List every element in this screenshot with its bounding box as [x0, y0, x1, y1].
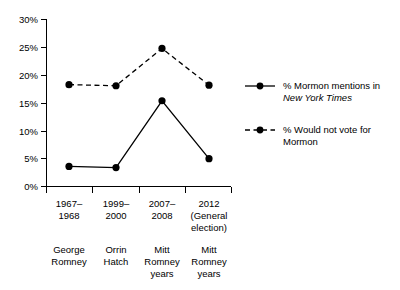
- data-point: [205, 82, 212, 89]
- y-axis-ticks: [41, 20, 47, 187]
- x-person-label-3-line1: Mitt: [201, 244, 217, 255]
- legend-label-1-line2: New York Times: [283, 92, 352, 103]
- x-person-label-2-line3: years: [150, 268, 173, 279]
- data-point: [205, 155, 212, 162]
- line-chart: 30% 25% 20% 15% 10% 5% 0% 1967–: [0, 0, 400, 290]
- series-would-not-vote: [65, 45, 212, 89]
- legend-dashed-marker-icon: [257, 127, 264, 134]
- legend-label-2-line2: Mormon: [283, 136, 318, 147]
- data-point: [112, 164, 119, 171]
- chart-legend: % Mormon mentions in New York Times % Wo…: [245, 80, 380, 147]
- data-point: [65, 81, 72, 88]
- legend-item-would-not-vote[interactable]: % Would not vote for Mormon: [245, 124, 371, 147]
- series-solid-path: [69, 101, 209, 168]
- x-person-label-0-line2: Romney: [51, 256, 87, 267]
- y-axis-tick-labels: 30% 25% 20% 15% 10% 5% 0%: [19, 14, 39, 192]
- y-tick-label-25: 25%: [19, 42, 39, 53]
- x-period-label-2-line1: 2007–: [149, 198, 176, 209]
- series-mormon-mentions: [65, 97, 212, 171]
- data-point: [158, 45, 165, 52]
- x-person-label-3-line3: years: [197, 268, 220, 279]
- series-dashed-path: [69, 48, 209, 85]
- x-period-label-1-line1: 1999–: [103, 198, 130, 209]
- y-tick-label-0: 0%: [24, 181, 38, 192]
- x-person-label-2-line2: Romney: [144, 256, 180, 267]
- data-point: [65, 163, 72, 170]
- legend-label-1-line1: % Mormon mentions in: [283, 80, 380, 91]
- data-point: [158, 97, 165, 104]
- x-period-label-3-line3: election): [191, 222, 227, 233]
- x-period-label-3-line2: (General: [191, 210, 228, 221]
- y-tick-label-20: 20%: [19, 70, 39, 81]
- x-axis-person-labels: George Romney Orrin Hatch Mitt Romney ye…: [51, 244, 227, 279]
- x-person-label-3-line2: Romney: [191, 256, 227, 267]
- y-tick-label-10: 10%: [19, 126, 39, 137]
- legend-item-mormon-mentions[interactable]: % Mormon mentions in New York Times: [245, 80, 380, 103]
- x-person-label-0-line1: George: [53, 244, 85, 255]
- legend-label-2-line1: % Would not vote for: [283, 124, 371, 135]
- chart-canvas: 30% 25% 20% 15% 10% 5% 0% 1967–: [0, 0, 400, 290]
- data-point: [112, 82, 119, 89]
- x-period-label-1-line2: 2000: [105, 210, 126, 221]
- x-person-label-2-line1: Mitt: [154, 244, 170, 255]
- x-period-label-0-line1: 1967–: [56, 198, 83, 209]
- legend-solid-marker-icon: [257, 83, 264, 90]
- y-tick-label-5: 5%: [24, 153, 38, 164]
- x-period-label-0-line2: 1968: [58, 210, 79, 221]
- x-period-label-3-line1: 2012: [198, 198, 219, 209]
- x-axis-ticks: [47, 187, 232, 194]
- x-period-label-2-line2: 2008: [151, 210, 172, 221]
- y-tick-label-30: 30%: [19, 14, 39, 25]
- y-tick-label-15: 15%: [19, 98, 39, 109]
- x-person-label-1-line1: Orrin: [105, 244, 126, 255]
- x-person-label-1-line2: Hatch: [104, 256, 129, 267]
- x-axis-period-labels: 1967– 1968 1999– 2000 2007– 2008 2012 (G…: [56, 198, 228, 233]
